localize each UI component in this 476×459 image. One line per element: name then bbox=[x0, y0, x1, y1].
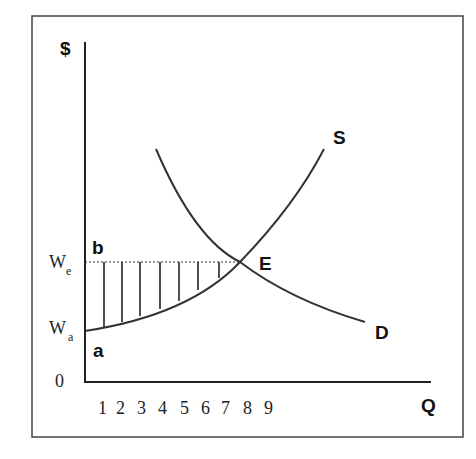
hatch-lines bbox=[104, 262, 219, 327]
svg-text:3: 3 bbox=[137, 398, 146, 418]
point-b-label: b bbox=[92, 237, 104, 258]
demand-curve bbox=[156, 149, 365, 322]
svg-text:6: 6 bbox=[201, 398, 210, 418]
x-axis-label: Q bbox=[421, 395, 436, 416]
equilibrium-label: E bbox=[259, 253, 272, 274]
svg-text:1: 1 bbox=[98, 398, 107, 418]
svg-text:2: 2 bbox=[116, 398, 125, 418]
svg-text:8: 8 bbox=[243, 398, 252, 418]
supply-label: S bbox=[333, 127, 346, 148]
svg-text:7: 7 bbox=[221, 398, 230, 418]
svg-text:4: 4 bbox=[158, 398, 167, 418]
svg-text:5: 5 bbox=[180, 398, 189, 418]
demand-label: D bbox=[375, 322, 389, 343]
point-a-label: a bbox=[93, 340, 104, 361]
origin-label: 0 bbox=[55, 371, 64, 391]
wa-label: W bbox=[49, 318, 66, 338]
svg-text:9: 9 bbox=[264, 398, 273, 418]
y-axis-label: $ bbox=[60, 38, 71, 59]
we-label: W bbox=[49, 252, 66, 272]
supply-curve bbox=[85, 149, 324, 331]
frame-border bbox=[32, 16, 463, 437]
supply-demand-diagram: $ Q 0 S D E b a W e W a 1 2 3 4 5 6 7 8 … bbox=[0, 0, 476, 459]
wa-subscript: a bbox=[68, 330, 74, 344]
we-subscript: e bbox=[66, 264, 71, 278]
x-tick-labels: 1 2 3 4 5 6 7 8 9 bbox=[98, 398, 273, 418]
